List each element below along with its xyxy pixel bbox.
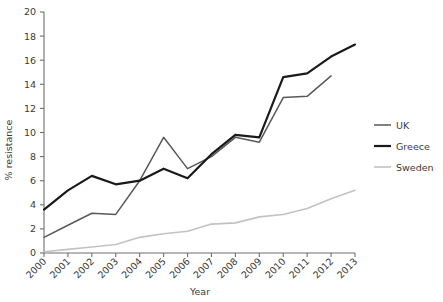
x-tick-label: 2009 [239, 256, 264, 281]
chart-legend: UKGreeceSweden [374, 120, 434, 173]
series-group [44, 45, 355, 252]
x-tick-label: 2007 [191, 256, 216, 281]
y-axis-title: % resistance [3, 119, 14, 180]
y-tick-label: 8 [30, 151, 36, 162]
legend-label-uk: UK [396, 120, 410, 131]
x-tick-label: 2001 [47, 256, 72, 281]
chart-canvas: 02468101214161820 2000200120022003200420… [0, 0, 443, 302]
y-tick-label: 2 [30, 223, 36, 234]
y-tick-label: 0 [30, 247, 36, 258]
y-axis-ticks: 02468101214161820 [24, 6, 44, 258]
y-tick-label: 12 [24, 103, 36, 114]
x-tick-label: 2002 [71, 256, 96, 281]
y-tick-label: 10 [24, 127, 36, 138]
x-axis-title: Year [189, 286, 210, 297]
y-tick-label: 18 [24, 31, 36, 42]
y-tick-label: 20 [24, 6, 36, 17]
series-line-sweden [44, 190, 355, 251]
legend-label-sweden: Sweden [396, 162, 434, 173]
line-chart: 02468101214161820 2000200120022003200420… [0, 0, 443, 302]
x-tick-label: 2006 [167, 256, 192, 281]
axes-group [44, 12, 355, 253]
x-tick-label: 2005 [143, 256, 168, 281]
x-axis-ticks: 2000200120022003200420052006200720082009… [24, 253, 360, 281]
legend-label-greece: Greece [396, 141, 430, 152]
x-tick-label: 2013 [335, 256, 360, 281]
x-tick-label: 2008 [215, 256, 240, 281]
y-tick-label: 6 [30, 175, 36, 186]
y-tick-label: 16 [24, 55, 36, 66]
x-tick-label: 2003 [95, 256, 120, 281]
x-tick-label: 2010 [263, 256, 288, 281]
series-line-greece [44, 45, 355, 210]
x-tick-label: 2012 [311, 256, 336, 281]
x-tick-label: 2011 [287, 256, 312, 281]
y-tick-label: 4 [30, 199, 36, 210]
x-tick-label: 2004 [119, 256, 144, 281]
y-tick-label: 14 [24, 79, 36, 90]
x-tick-label: 2000 [24, 256, 49, 281]
